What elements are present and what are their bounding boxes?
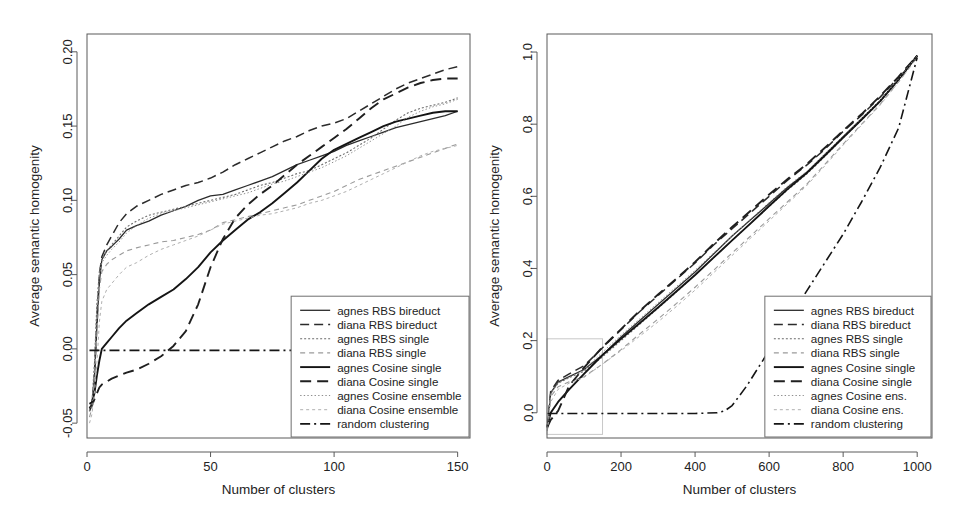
legend-label: agnes Cosine ens. xyxy=(811,389,907,402)
legend-label: agnes RBS bireduct xyxy=(811,304,915,317)
y-tick-label: 0.00 xyxy=(61,336,76,361)
legend-label: random clustering xyxy=(337,417,429,430)
y-tick-label: 0.2 xyxy=(521,332,536,350)
legend-label: diana RBS single xyxy=(337,346,426,359)
legend-label: diana Cosine single xyxy=(811,375,912,388)
x-axis-title: Number of clusters xyxy=(683,482,797,497)
legend-label: diana Cosine ens. xyxy=(811,403,904,416)
legend-label: diana RBS bireduct xyxy=(337,318,438,331)
y-tick-label: 0.05 xyxy=(61,262,76,287)
y-tick-label: 0.10 xyxy=(61,188,76,213)
x-axis: 050100150 xyxy=(83,452,468,474)
x-tick-label: 0 xyxy=(83,459,90,474)
right-chart-svg: 020040060080010000.00.20.40.60.81.0Numbe… xyxy=(483,0,967,508)
figure-container: 050100150-0.050.000.050.100.150.20Number… xyxy=(0,0,967,508)
legend-label: diana RBS single xyxy=(811,346,900,359)
legend: agnes RBS bireductdiana RBS bireductagne… xyxy=(291,296,469,437)
x-tick-label: 150 xyxy=(447,459,469,474)
y-axis-title: Average semantic homogenity xyxy=(27,145,42,327)
legend-label: random clustering xyxy=(811,417,903,430)
x-axis: 02004006008001000 xyxy=(543,452,931,474)
legend-label: diana RBS bireduct xyxy=(811,318,912,331)
x-tick-label: 0 xyxy=(543,459,550,474)
x-tick-label: 600 xyxy=(758,459,780,474)
y-tick-label: -0.05 xyxy=(61,408,76,438)
y-axis: -0.050.000.050.100.150.20 xyxy=(61,39,78,438)
x-tick-label: 50 xyxy=(203,459,217,474)
y-tick-label: 0.8 xyxy=(521,115,536,133)
chart-panel-left: 050100150-0.050.000.050.100.150.20Number… xyxy=(0,0,483,508)
x-tick-label: 1000 xyxy=(903,459,932,474)
x-tick-label: 200 xyxy=(610,459,632,474)
legend-label: agnes Cosine ensemble xyxy=(337,389,461,402)
y-axis-title: Average semantic homogenity xyxy=(487,145,502,327)
y-tick-label: 0.4 xyxy=(521,259,536,277)
x-tick-label: 100 xyxy=(323,459,345,474)
y-tick-label: 0.20 xyxy=(61,39,76,64)
x-tick-label: 800 xyxy=(832,459,854,474)
legend-label: diana Cosine single xyxy=(337,375,438,388)
x-axis-title: Number of clusters xyxy=(222,482,336,497)
legend-label: agnes Cosine single xyxy=(811,361,915,374)
y-tick-label: 0.6 xyxy=(521,187,536,205)
y-tick-label: 0.0 xyxy=(521,404,536,422)
y-tick-label: 0.15 xyxy=(61,113,76,138)
chart-panel-right: 020040060080010000.00.20.40.60.81.0Numbe… xyxy=(483,0,966,508)
legend-label: agnes RBS single xyxy=(811,332,903,345)
legend: agnes RBS bireductdiana RBS bireductagne… xyxy=(765,296,931,437)
legend-label: diana Cosine ensemble xyxy=(337,403,458,416)
y-tick-label: 1.0 xyxy=(521,43,536,61)
x-tick-label: 400 xyxy=(684,459,706,474)
left-chart-svg: 050100150-0.050.000.050.100.150.20Number… xyxy=(0,0,483,508)
legend-label: agnes RBS single xyxy=(337,332,429,345)
legend-label: agnes RBS bireduct xyxy=(337,304,441,317)
y-axis: 0.00.20.40.60.81.0 xyxy=(521,43,538,422)
legend-label: agnes Cosine single xyxy=(337,361,441,374)
